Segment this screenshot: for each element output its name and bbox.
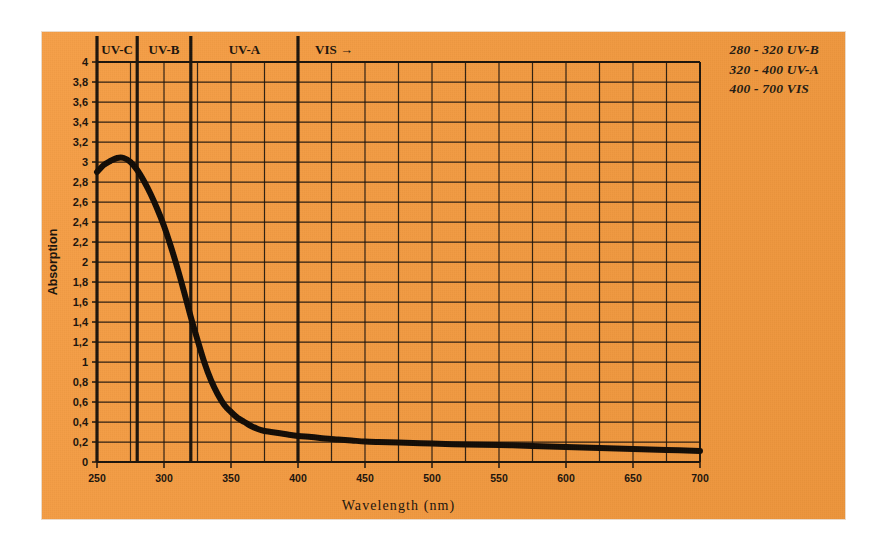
legend-line-vis: 400 - 700 VIS <box>730 79 819 99</box>
y-tick-label: 3,2 <box>73 136 88 148</box>
band-label: UV-B <box>149 42 180 57</box>
y-tick-label: 3,6 <box>73 96 88 108</box>
y-tick-label: 0,8 <box>73 376 88 388</box>
x-axis-title: Wavelength (nm) <box>342 498 456 514</box>
x-tick-label: 450 <box>356 472 374 484</box>
y-tick-label: 0,2 <box>73 436 88 448</box>
y-tick-label: 2,2 <box>73 236 88 248</box>
x-tick-label: 500 <box>423 472 441 484</box>
chart-panel: 00,20,40,60,811,21,41,61,822,22,42,62,83… <box>42 32 845 519</box>
x-tick-label: 700 <box>691 472 709 484</box>
y-tick-label: 3 <box>82 156 88 168</box>
y-axis-title: Absorption <box>46 229 60 296</box>
band-range-legend: 280 - 320 UV-B 320 - 400 UV-A 400 - 700 … <box>730 40 819 99</box>
band-labels: UV-CUV-BUV-AVIS → <box>101 42 353 57</box>
legend-line-uva: 320 - 400 UV-A <box>730 60 819 80</box>
x-tick-label: 600 <box>557 472 575 484</box>
y-tick-label: 2,4 <box>73 216 89 228</box>
y-tick-label: 4 <box>82 56 89 68</box>
y-tick-label: 0,4 <box>73 416 89 428</box>
x-axis-tick-labels: 250300350400450500550600650700 <box>88 472 709 484</box>
absorption-spectrum-chart: 00,20,40,60,811,21,41,61,822,22,42,62,83… <box>42 32 845 519</box>
x-tick-label: 650 <box>624 472 642 484</box>
y-tick-label: 2,6 <box>73 196 88 208</box>
x-tick-label: 300 <box>155 472 173 484</box>
y-axis-tick-labels: 00,20,40,60,811,21,41,61,822,22,42,62,83… <box>73 56 89 468</box>
photograph-background: 00,20,40,60,811,21,41,61,822,22,42,62,83… <box>0 0 883 557</box>
y-tick-label: 1 <box>82 356 88 368</box>
x-tick-label: 550 <box>490 472 508 484</box>
y-tick-label: 1,4 <box>73 316 89 328</box>
axis-lines <box>92 62 700 468</box>
y-tick-label: 3,4 <box>73 116 89 128</box>
y-tick-label: 0 <box>82 456 88 468</box>
y-tick-label: 2 <box>82 256 88 268</box>
y-tick-label: 1,6 <box>73 296 88 308</box>
band-label: VIS → <box>315 42 353 57</box>
y-tick-label: 1,8 <box>73 276 88 288</box>
x-tick-label: 250 <box>88 472 106 484</box>
y-tick-label: 1,2 <box>73 336 88 348</box>
x-tick-label: 400 <box>289 472 307 484</box>
x-tick-label: 350 <box>222 472 240 484</box>
y-tick-label: 0,6 <box>73 396 88 408</box>
y-tick-label: 2,8 <box>73 176 88 188</box>
legend-line-uvb: 280 - 320 UV-B <box>730 40 819 60</box>
band-label: UV-A <box>229 42 261 57</box>
y-tick-label: 3,8 <box>73 76 88 88</box>
band-label: UV-C <box>101 42 133 57</box>
